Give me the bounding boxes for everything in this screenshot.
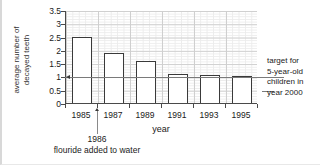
x-tick-label-1993: 1993 [200,110,219,120]
bar-1989 [136,61,156,104]
x-tick-label-1985: 1985 [72,110,91,120]
y-tick-label: 0.5 [49,86,61,96]
x-axis-title: year [152,124,170,134]
x-tick-label-1991: 1991 [168,110,187,120]
x-tick-mark [161,104,162,108]
target-note-line-3: children in [267,77,320,88]
y-axis-title-line-2: decayed teeth [21,26,31,93]
x-tick-mark [193,104,194,108]
target-note-line-2: 5-year-old [267,67,320,78]
target-line [65,77,284,78]
y-axis-title: average number of decayed teeth [8,8,34,112]
fluoride-annotation-year: 1986 [54,134,140,145]
bar-1985 [72,37,92,103]
bar-1995 [232,76,252,103]
y-tick-label: 1.5 [49,59,61,69]
target-note-line-1: target for [267,56,320,67]
y-tick-label: 2.5 [49,33,61,43]
x-tick-label-1989: 1989 [136,110,155,120]
target-note-line-4: year 2000 [267,88,320,99]
x-tick-mark [65,104,66,108]
x-tick-mark [257,104,258,108]
y-tick-label: 3.5 [49,6,61,16]
fluoride-marker-line [97,111,98,134]
fluoride-marker-arrow-icon [95,108,99,111]
x-tick-mark [129,104,130,108]
target-note: target for 5-year-old children in year 2… [267,56,320,98]
x-tick-label-1987: 1987 [104,110,123,120]
fluoride-annotation: 1986 flouride added to water [54,134,140,156]
x-tick-mark [225,104,226,108]
target-line-arrow-icon [66,75,70,79]
chart-figure: average number of decayed teeth 00.511.5… [0,0,320,165]
fluoride-annotation-text: flouride added to water [54,145,140,156]
plot-area [65,11,257,104]
bar-1993 [200,75,220,103]
x-tick-label-1995: 1995 [232,110,251,120]
y-axis-title-line-1: average number of [12,26,22,93]
